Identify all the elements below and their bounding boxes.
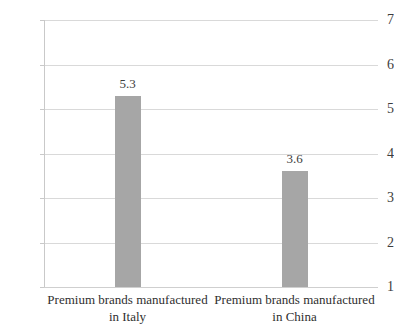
gridline <box>44 65 378 66</box>
y-axis-tick-mark <box>40 243 44 244</box>
bar-value-label: 5.3 <box>98 77 158 90</box>
y-axis-tick-mark <box>40 154 44 155</box>
gridline <box>44 154 378 155</box>
x-axis-category-label-line: Premium brands manufactured <box>211 291 378 308</box>
y-axis-tick-label: 4 <box>360 147 394 161</box>
gridline <box>44 20 378 21</box>
y-axis-tick-label: 3 <box>360 191 394 205</box>
bar[interactable] <box>115 96 141 287</box>
gridline <box>44 287 378 288</box>
x-axis-category-label-line: in Italy <box>44 308 211 325</box>
y-axis-tick-mark <box>40 287 44 288</box>
y-axis-tick-mark <box>40 109 44 110</box>
y-axis-tick-label: 5 <box>360 102 394 116</box>
bar[interactable] <box>282 171 308 287</box>
y-axis-tick-label: 7 <box>360 13 394 27</box>
x-axis-category-label-line: Premium brands manufactured <box>44 291 211 308</box>
y-axis-tick-label: 2 <box>360 236 394 250</box>
plot-area <box>44 20 378 287</box>
gridline <box>44 243 378 244</box>
y-axis-spine <box>44 20 45 287</box>
x-axis-category-label: Premium brands manufacturedin China <box>211 291 378 325</box>
y-axis-tick-label: 6 <box>360 58 394 72</box>
bar-value-label: 3.6 <box>265 152 325 165</box>
gridline <box>44 198 378 199</box>
x-axis-category-label-line: in China <box>211 308 378 325</box>
gridline <box>44 109 378 110</box>
y-axis-tick-mark <box>40 65 44 66</box>
y-axis-tick-mark <box>40 198 44 199</box>
bar-chart: 76543215.3Premium brands manufacturedin … <box>0 0 394 334</box>
y-axis-tick-mark <box>40 20 44 21</box>
x-axis-category-label: Premium brands manufacturedin Italy <box>44 291 211 325</box>
